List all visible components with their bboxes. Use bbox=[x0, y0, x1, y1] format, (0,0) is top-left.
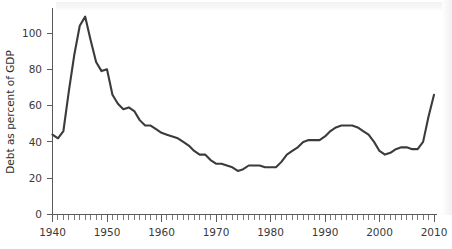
line-chart: 020406080100 194019501960197019801990200… bbox=[0, 0, 452, 249]
y-tick-label-80: 80 bbox=[29, 63, 42, 75]
x-tick-label-1950: 1950 bbox=[94, 226, 121, 238]
y-tick-label-40: 40 bbox=[29, 136, 42, 148]
x-tick-label-2010: 2010 bbox=[421, 226, 448, 238]
x-tick-label-1940: 1940 bbox=[39, 226, 66, 238]
y-tick-label-20: 20 bbox=[29, 172, 42, 184]
x-tick-label-1980: 1980 bbox=[257, 226, 284, 238]
x-tick-label-2000: 2000 bbox=[366, 226, 393, 238]
x-tick-label-1990: 1990 bbox=[312, 226, 339, 238]
y-tick-label-60: 60 bbox=[29, 99, 42, 111]
x-tick-label-1960: 1960 bbox=[148, 226, 175, 238]
x-axis-minor-ticks bbox=[58, 215, 429, 220]
y-tick-label-100: 100 bbox=[22, 27, 42, 39]
x-tick-label-1970: 1970 bbox=[203, 226, 230, 238]
y-axis-ticks: 020406080100 bbox=[22, 27, 53, 221]
y-axis-title: Debt as percent of GDP bbox=[4, 50, 16, 173]
data-series-line bbox=[53, 17, 435, 171]
chart-container: 020406080100 194019501960197019801990200… bbox=[0, 0, 452, 249]
y-tick-label-0: 0 bbox=[35, 208, 42, 220]
